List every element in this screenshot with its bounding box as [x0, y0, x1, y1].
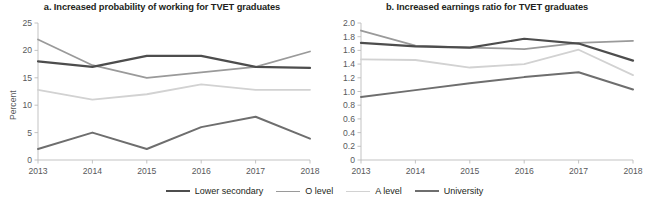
- legend-entry-o-level[interactable]: O level: [276, 186, 333, 196]
- panel-b-y-tick-label: 1.0: [343, 87, 355, 97]
- panel-b-y-tick-label: 1.6: [343, 45, 355, 55]
- panel-a-y-tick-label: 5: [27, 128, 32, 138]
- panel-a-x-tick-label: 2013: [28, 166, 47, 176]
- panel-b-y-tick-label: 0.2: [343, 141, 355, 151]
- panel-b-x-tick-label: 2018: [623, 166, 642, 176]
- panel-a-title: a. Increased probability of working for …: [0, 2, 324, 12]
- panel-a-x-tick-label: 2015: [137, 166, 156, 176]
- panel-a-x-tick-label: 2017: [246, 166, 265, 176]
- panel-b-title: b. Increased earnings ratio for TVET gra…: [325, 2, 649, 12]
- panel-b-series-line: [361, 72, 633, 97]
- legend-label: Lower secondary: [195, 186, 264, 196]
- panel-a-series-line: [38, 56, 310, 68]
- panel-b-x-tick-label: 2014: [406, 166, 425, 176]
- panel-b-y-tick-label: 1.4: [343, 59, 355, 69]
- panel-b-y-tick-label: 0.8: [343, 100, 355, 110]
- panel-a-y-axis-title: Percent: [8, 90, 18, 120]
- panel-a-x-tick-label: 2014: [83, 166, 102, 176]
- legend-label: O level: [305, 186, 333, 196]
- panel-a-series-line: [38, 84, 310, 99]
- legend-line-swatch-icon: [346, 191, 370, 192]
- legend-entry-lower-secondary[interactable]: Lower secondary: [166, 186, 264, 196]
- panel-b-y-tick-label: 1.2: [343, 73, 355, 83]
- legend-entry-university[interactable]: University: [415, 186, 484, 196]
- panel-b-x-tick-label: 2017: [569, 166, 588, 176]
- legend-line-swatch-icon: [166, 190, 190, 192]
- legend-entry-a-level[interactable]: A level: [346, 186, 402, 196]
- panel-a-y-tick-label: 20: [22, 45, 32, 55]
- legend-label: A level: [375, 186, 402, 196]
- chart-panel-b: b. Increased earnings ratio for TVET gra…: [325, 0, 649, 178]
- figure-root: a. Increased probability of working for …: [0, 0, 649, 202]
- panel-b-x-tick-label: 2016: [515, 166, 534, 176]
- panel-b-y-tick-label: 0: [350, 155, 355, 165]
- panel-a-y-tick-label: 10: [22, 100, 32, 110]
- legend-line-swatch-icon: [276, 191, 300, 192]
- panel-b-y-tick-label: 0.4: [343, 128, 355, 138]
- panel-b-x-tick-label: 2013: [351, 166, 370, 176]
- panel-b-svg: [361, 23, 633, 160]
- panel-b-x-tick-label: 2015: [460, 166, 479, 176]
- panel-a-y-tick-label: 0: [27, 155, 32, 165]
- chart-panel-a: a. Increased probability of working for …: [0, 0, 324, 178]
- legend-line-swatch-icon: [415, 190, 439, 192]
- legend-label: University: [444, 186, 484, 196]
- panel-a-series-line: [38, 39, 310, 77]
- panel-a-series-line: [38, 117, 310, 149]
- panel-a-x-tick-label: 2016: [192, 166, 211, 176]
- panel-a-svg: [38, 23, 310, 160]
- panel-b-y-tick-label: 1.8: [343, 32, 355, 42]
- panel-a-axis-spine: [38, 23, 310, 160]
- panel-b-plot-area: 00.20.40.60.81.01.21.41.61.82.0201320142…: [361, 23, 633, 160]
- panel-a-x-tick-label: 2018: [300, 166, 319, 176]
- panel-b-y-tick-label: 0.6: [343, 114, 355, 124]
- chart-legend: Lower secondaryO levelA levelUniversity: [0, 180, 649, 202]
- panel-a-plot-area: 0510152025201320142015201620172018: [38, 23, 310, 160]
- panel-b-series-line: [361, 50, 633, 75]
- panel-b-y-tick-label: 2.0: [343, 18, 355, 28]
- panel-a-y-tick-label: 15: [22, 73, 32, 83]
- panel-a-y-tick-label: 25: [22, 18, 32, 28]
